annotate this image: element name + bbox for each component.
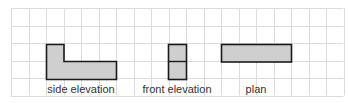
plan-shape [222,45,292,63]
side-elevation-label: side elevation [47,83,114,95]
front-elevation-shape [169,45,187,80]
plan-label: plan [246,83,267,95]
front-elevation-label: front elevation [142,83,211,95]
